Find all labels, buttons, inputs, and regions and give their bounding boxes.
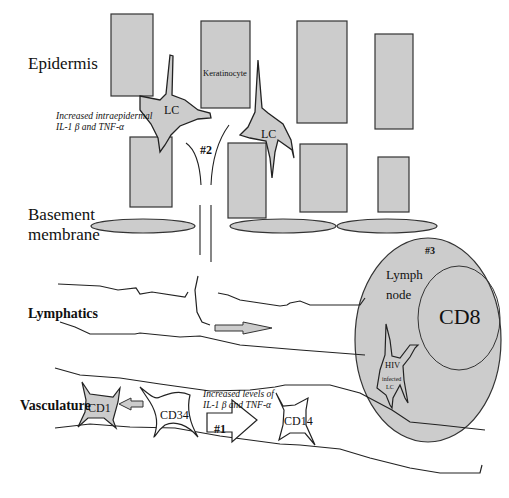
hiv-label-2: infected xyxy=(382,376,401,382)
keratinocyte-cell xyxy=(375,34,413,129)
keratinocyte-cell xyxy=(201,21,250,108)
lymph-node-label-1: Lymph xyxy=(386,268,423,281)
region-label-basement-1: Basement xyxy=(28,206,95,223)
step2-label: #2 xyxy=(200,144,212,156)
keratinocyte-cell xyxy=(297,21,347,123)
region-label-vasculature: Vasculature xyxy=(20,399,91,413)
hiv-label-1: HIV xyxy=(385,361,400,370)
keratinocyte-cell xyxy=(130,137,172,207)
cd1-arrow xyxy=(119,398,143,410)
lymph-node-label-2: node xyxy=(386,288,411,301)
lc1-label: LC xyxy=(164,104,179,116)
basement-membrane-segment xyxy=(230,219,336,233)
region-label-epidermis: Epidermis xyxy=(28,55,98,72)
keratinocyte-cell xyxy=(300,144,347,212)
hiv-label-3: LC xyxy=(386,384,394,390)
cd34-label: CD34 xyxy=(160,409,189,421)
keratinocyte-cell xyxy=(378,157,409,212)
cd14-label: CD14 xyxy=(284,415,313,427)
basement-membrane-segment xyxy=(337,219,437,233)
step1-label: #1 xyxy=(214,423,226,435)
epidermal-cytokine-note-1: Increased intraepidermal xyxy=(56,111,152,122)
region-label-basement-2: membrane xyxy=(28,226,100,243)
keratinocyte-cell xyxy=(228,143,266,218)
cd1-label: CD1 xyxy=(88,402,111,414)
step3-label: #3 xyxy=(425,246,435,256)
vascular-cytokine-note-1: Increased levels of xyxy=(203,389,274,400)
lymphatics-flow-arrow xyxy=(215,322,272,334)
keratinocyte-label: Keratinocyte xyxy=(203,69,247,78)
basement-membrane-segment xyxy=(91,219,195,233)
lc2-label: LC xyxy=(261,128,276,140)
epidermal-cytokine-note-2: IL-1 β and TNF-α xyxy=(56,122,124,133)
keratinocyte-cell xyxy=(111,14,153,96)
region-label-lymphatics: Lymphatics xyxy=(28,307,98,321)
lymph-node xyxy=(355,238,501,442)
cd8-label: CD8 xyxy=(439,306,481,328)
vascular-cytokine-note-2: IL-1 β and TNF-α xyxy=(203,400,271,411)
